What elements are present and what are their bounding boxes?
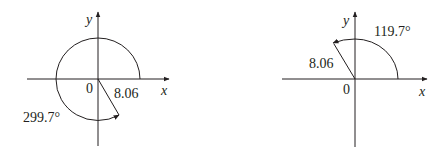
left-diagram: y x 0 8.06 299.7° — [23, 12, 169, 146]
polar-diagrams: y x 0 8.06 299.7° y x 0 8.06 119.7° — [0, 0, 447, 158]
y-axis-label: y — [84, 12, 93, 27]
origin-label: 0 — [86, 81, 93, 96]
x-axis-label: x — [418, 84, 426, 99]
magnitude-label: 8.06 — [309, 56, 334, 71]
origin-label: 0 — [343, 82, 350, 97]
magnitude-label: 8.06 — [114, 86, 139, 101]
y-axis-label: y — [341, 13, 350, 28]
right-diagram: y x 0 8.06 119.7° — [282, 12, 427, 147]
angle-label: 119.7° — [374, 24, 411, 39]
x-axis-label: x — [160, 83, 168, 98]
angle-label: 299.7° — [23, 110, 60, 125]
vector-line — [334, 44, 355, 79]
